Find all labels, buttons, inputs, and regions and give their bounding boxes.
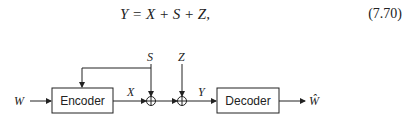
decoder-label: Decoder	[225, 94, 270, 108]
decoder-block: Decoder	[217, 88, 279, 113]
encoder-label: Encoder	[60, 94, 105, 108]
label-s: S	[147, 50, 153, 64]
label-x: X	[126, 85, 135, 99]
label-y: Y	[198, 85, 206, 99]
sum-junction-2	[178, 97, 187, 106]
label-z: Z	[178, 50, 185, 64]
label-w-hat: Ŵ	[309, 94, 320, 108]
arrow-s-feedback	[82, 68, 151, 87]
block-diagram: W Encoder X S Z	[0, 0, 412, 129]
figure: Y = X + S + Z, (7.70) W Encoder X S	[0, 0, 412, 129]
encoder-block: Encoder	[52, 88, 113, 113]
label-w: W	[14, 94, 25, 108]
sum-junction-1	[147, 97, 156, 106]
